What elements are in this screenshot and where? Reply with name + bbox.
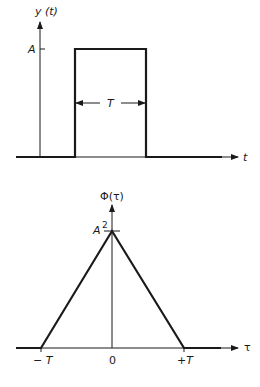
peak-exponent: 2 — [102, 220, 108, 230]
bottom-plot: Φ(τ) τ A 2 − T 0 +T — [16, 190, 251, 367]
tick-label-pos-T: +T — [177, 354, 194, 367]
tick-label-zero: 0 — [109, 354, 116, 367]
top-plot: y (t) t A T — [16, 5, 248, 164]
amplitude-label: A — [27, 43, 36, 56]
rect-pulse — [16, 49, 222, 157]
diagram-canvas: y (t) t A T Φ(τ) τ A 2 − T 0 +T — [0, 0, 260, 387]
top-x-axis-label: t — [243, 151, 248, 164]
tick-label-neg-T: − T — [33, 354, 54, 367]
top-y-axis-label: y (t) — [34, 5, 58, 18]
width-label: T — [107, 97, 115, 110]
bottom-y-axis-label: Φ(τ) — [100, 190, 124, 203]
triangle-function — [16, 231, 221, 348]
peak-label: A — [92, 224, 101, 237]
bottom-x-axis-label: τ — [244, 341, 251, 354]
